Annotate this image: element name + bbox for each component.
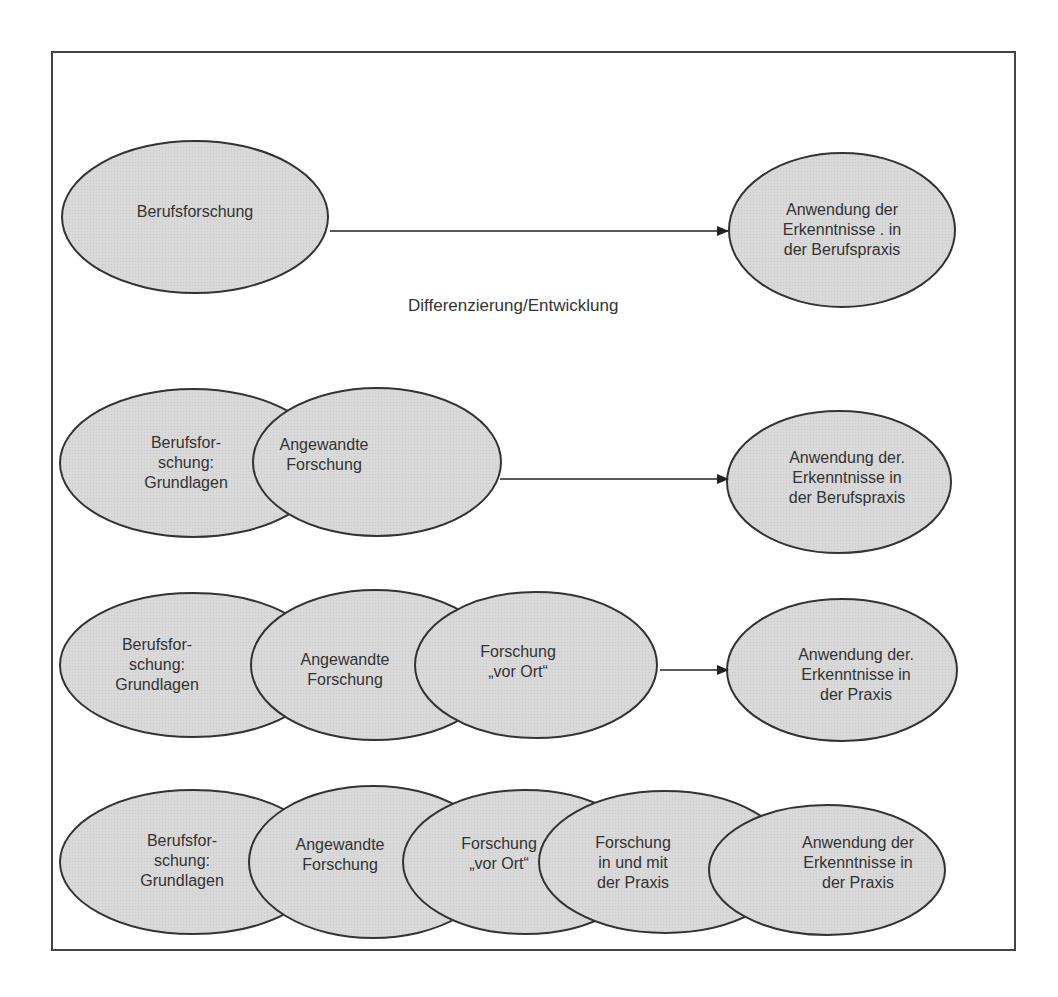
node-label-r2n2: Angewandte Forschung bbox=[280, 435, 369, 475]
node-label-r4n4: Forschung in und mit der Praxis bbox=[595, 833, 671, 893]
caption-differenzierung-entwicklung: Differenzierung/Entwicklung bbox=[408, 296, 618, 316]
node-label-r3n1: Berufsfor- schung: Grundlagen bbox=[115, 635, 199, 695]
node-label-r4n1: Berufsfor- schung: Grundlagen bbox=[140, 831, 224, 891]
node-label-r3n2: Angewandte Forschung bbox=[301, 650, 390, 690]
node-label-r1n2: Anwendung der Erkenntnisse . in der Beru… bbox=[783, 200, 901, 260]
node-label-r3n4: Anwendung der. Erkenntnisse in der Praxi… bbox=[798, 645, 914, 705]
node-label-r2n1: Berufsfor- schung: Grundlagen bbox=[144, 433, 228, 493]
node-label-r3n3: Forschung „vor Ort“ bbox=[480, 642, 556, 682]
node-label-r4n2: Angewandte Forschung bbox=[296, 835, 385, 875]
node-label-r2n3: Anwendung der. Erkenntnisse in der Beruf… bbox=[789, 448, 906, 508]
node-label-r4n3: Forschung „vor Ort“ bbox=[461, 834, 537, 874]
node-label-r1n1: Berufsforschung bbox=[137, 202, 254, 222]
node-label-r4n5: Anwendung der Erkenntnisse in der Praxis bbox=[802, 833, 914, 893]
